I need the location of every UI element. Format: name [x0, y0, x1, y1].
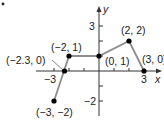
- point-2-2: [126, 38, 131, 43]
- x-tick-label-3: 3: [141, 73, 147, 85]
- y-tick-label-neg2: −2: [84, 95, 96, 107]
- point-neg3-neg2: [51, 98, 56, 103]
- x-axis-label: x: [154, 73, 161, 85]
- figure-bullet: [2, 3, 5, 6]
- label-neg3-neg2: (−3, −2): [36, 106, 73, 118]
- label-neg2-1: (−2, 1): [51, 41, 82, 53]
- x-tick-label-neg3: −3: [44, 73, 56, 85]
- point-neg2-1: [66, 53, 71, 58]
- y-axis-label: y: [102, 3, 109, 15]
- point-neg2.3-0: [62, 68, 67, 73]
- piecewise-graph: y x 3 −2 −3 3 (−2.3, 0) (−2, 1) (0, 1) (…: [0, 0, 164, 122]
- label-3-0: (3, 0): [142, 53, 164, 65]
- point-0-1: [96, 53, 101, 58]
- y-axis-arrow-icon: [97, 6, 102, 12]
- y-tick-label-3: 3: [89, 20, 95, 32]
- label-0-1: (0, 1): [105, 55, 130, 67]
- label-2-2: (2, 2): [121, 24, 146, 36]
- label-neg2.3-0: (−2.3, 0): [6, 54, 45, 66]
